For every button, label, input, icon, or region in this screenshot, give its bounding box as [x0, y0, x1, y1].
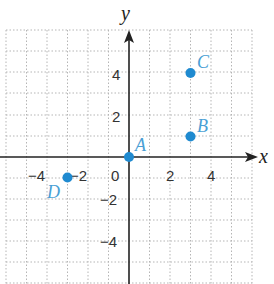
- axes: [0, 38, 250, 284]
- point-d-label: D: [46, 182, 60, 202]
- point-b-label: B: [197, 116, 208, 136]
- x-tick-label: −2: [70, 167, 87, 184]
- point-d: [63, 173, 73, 183]
- point-a: [124, 152, 134, 162]
- origin-label: 0: [111, 167, 119, 184]
- x-tick-label: 4: [207, 167, 215, 184]
- point-b: [186, 132, 196, 142]
- x-axis-label: x: [258, 145, 268, 167]
- point-c: [186, 68, 196, 78]
- y-axis-label: y: [119, 2, 130, 25]
- y-tick-label: 2: [112, 108, 120, 125]
- x-tick-label: −4: [28, 167, 45, 184]
- point-a-label: A: [134, 135, 147, 155]
- y-tick-label: −2: [100, 191, 117, 208]
- y-tick-label: −4: [100, 233, 117, 250]
- point-c-label: C: [197, 52, 210, 72]
- x-tick-label: 2: [166, 167, 174, 184]
- y-tick-label: 4: [112, 66, 120, 83]
- coordinate-plane: x y −4 −2 0 2 4 4 2 −2 −4 A B C D: [0, 0, 274, 284]
